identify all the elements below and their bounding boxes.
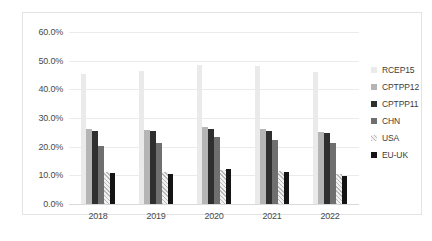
y-axis-tick-label: 30.0%	[38, 113, 63, 123]
legend-item-label: EU-UK	[382, 150, 408, 160]
legend-item-label: RCEP15	[382, 65, 414, 75]
bar-eu-uk-2021	[284, 172, 290, 204]
y-axis-tick-label: 50.0%	[38, 56, 63, 66]
bar-eu-uk-2020	[226, 169, 232, 204]
legend-item-rcep15[interactable]: RCEP15	[371, 65, 419, 75]
y-axis-tick-label: 60.0%	[38, 27, 63, 37]
bar-group: 2022	[301, 32, 359, 204]
x-axis-tick-label: 2022	[301, 211, 359, 221]
legend-item-label: CHN	[382, 116, 400, 126]
y-axis-tick-label: 40.0%	[38, 84, 63, 94]
gridline	[69, 204, 359, 205]
legend-swatch-icon	[371, 118, 377, 124]
legend-item-chn[interactable]: CHN	[371, 116, 419, 126]
legend-swatch-icon	[371, 152, 377, 158]
legend-swatch-icon	[371, 101, 377, 107]
legend-item-cptpp11[interactable]: CPTPP11	[371, 99, 419, 109]
legend-item-cptpp12[interactable]: CPTPP12	[371, 82, 419, 92]
chart-container: 0.0%10.0%20.0%30.0%40.0%50.0%60.0% 20182…	[22, 12, 422, 215]
bars	[81, 32, 116, 204]
bars	[197, 32, 232, 204]
legend-swatch-icon	[371, 67, 377, 73]
bar-group: 2018	[69, 32, 127, 204]
bar-group: 2020	[185, 32, 243, 204]
legend-item-label: CPTPP12	[382, 82, 419, 92]
legend-item-eu-uk[interactable]: EU-UK	[371, 150, 419, 160]
y-axis-tick-label: 0.0%	[43, 199, 63, 209]
bar-eu-uk-2019	[168, 174, 174, 204]
bar-eu-uk-2022	[342, 176, 348, 204]
x-axis-tick-label: 2021	[243, 211, 301, 221]
bar-groups: 20182019202020212022	[69, 32, 359, 204]
x-axis-tick-label: 2018	[69, 211, 127, 221]
legend-item-usa[interactable]: USA	[371, 133, 419, 143]
x-axis-tick-label: 2020	[185, 211, 243, 221]
bar-group: 2021	[243, 32, 301, 204]
legend-swatch-icon	[371, 84, 377, 90]
bars	[139, 32, 174, 204]
bars	[255, 32, 290, 204]
legend-swatch-icon	[371, 135, 377, 141]
plot-area: 0.0%10.0%20.0%30.0%40.0%50.0%60.0% 20182…	[69, 32, 359, 204]
chart-legend: RCEP15CPTPP12CPTPP11CHNUSAEU-UK	[371, 65, 419, 160]
y-axis-tick-label: 20.0%	[38, 142, 63, 152]
x-axis-tick-label: 2019	[127, 211, 185, 221]
bars	[313, 32, 348, 204]
bar-eu-uk-2018	[110, 173, 116, 204]
y-axis-tick-label: 10.0%	[38, 170, 63, 180]
bar-group: 2019	[127, 32, 185, 204]
legend-item-label: USA	[382, 133, 399, 143]
legend-item-label: CPTPP11	[382, 99, 418, 109]
